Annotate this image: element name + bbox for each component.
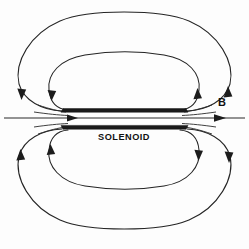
field-loop-inner-upper: [49, 52, 199, 110]
lower-loop-arrowheads: [16, 144, 233, 163]
field-axis-label: B: [218, 96, 226, 108]
outer-lower-right-arrow: [225, 151, 234, 163]
axis-field-line: [4, 114, 245, 122]
solenoid-field-diagram: SOLENOID B: [0, 0, 249, 249]
upper-loop-arrowheads: [17, 86, 232, 101]
outer-lower-left-arrow: [16, 149, 25, 161]
axis-arrow-left: [67, 114, 78, 121]
outer-upper-left-arrow: [17, 89, 26, 101]
solenoid-label: SOLENOID: [98, 132, 150, 142]
axis-arrow-right: [214, 114, 226, 122]
solenoid-coil-upper-bar: [61, 109, 188, 113]
solenoid-coil: [61, 109, 188, 130]
inner-upper-left-arrow: [48, 90, 57, 101]
converge-line-upper-left-2: [34, 112, 68, 116]
field-loop-inner-upper-path: [49, 52, 199, 110]
diagram-canvas: SOLENOID B: [0, 0, 249, 249]
inner-lower-right-arrow: [194, 150, 203, 161]
inner-upper-right-arrow: [193, 88, 202, 99]
converge-line-upper-right-2: [182, 112, 216, 116]
solenoid-coil-lower-bar: [61, 125, 188, 129]
inner-lower-left-arrow: [47, 144, 56, 155]
